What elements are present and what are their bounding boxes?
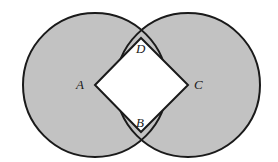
vertex-label-d: D (136, 42, 145, 55)
vertex-label-c: C (194, 78, 203, 91)
vertex-label-b: B (136, 116, 144, 129)
figure-canvas (0, 0, 278, 162)
geometry-figure: A D C B (0, 0, 278, 162)
vertex-label-a: A (76, 78, 84, 91)
